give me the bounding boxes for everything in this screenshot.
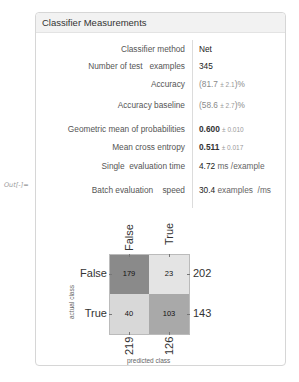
- output-label: Out[-]=: [4, 181, 29, 189]
- tick-mark: [109, 274, 112, 275]
- tick-mark: [169, 254, 170, 257]
- tick-mark: [129, 332, 130, 335]
- classifier-measurements-panel: Classifier Measurements Classifier metho…: [35, 12, 286, 366]
- x-axis-label: predicted class: [127, 357, 170, 364]
- row-label-false: False: [73, 267, 107, 279]
- confusion-matrix: False True 179 23 40 103 False True 202 …: [36, 13, 287, 367]
- column-label-false: False: [123, 224, 135, 251]
- tick-mark: [187, 314, 190, 315]
- matrix-frame: [109, 254, 190, 335]
- column-total-true: 126: [163, 337, 175, 355]
- tick-mark: [109, 314, 112, 315]
- tick-mark: [169, 332, 170, 335]
- row-label-true: True: [73, 307, 107, 319]
- tick-mark: [187, 274, 190, 275]
- tick-mark: [129, 254, 130, 257]
- row-total-true: 143: [193, 307, 211, 319]
- row-total-false: 202: [193, 267, 211, 279]
- column-total-false: 219: [123, 337, 135, 355]
- y-axis-label: actual class: [68, 285, 75, 319]
- column-label-true: True: [163, 223, 175, 245]
